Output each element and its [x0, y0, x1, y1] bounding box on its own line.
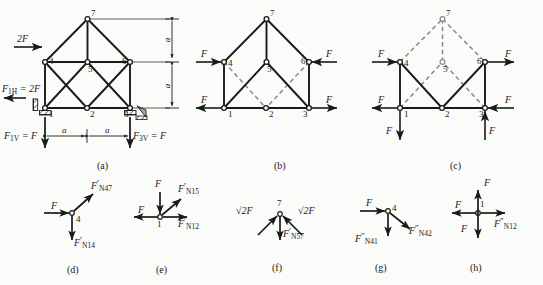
- panel-a-dim-a-1: a: [62, 125, 67, 135]
- panel-d-force-F: F: [51, 200, 57, 211]
- panel-caption-g: (g): [375, 262, 387, 273]
- panel-f-force-N57: F′N57: [283, 228, 304, 239]
- panel-g: [360, 209, 410, 236]
- panel-caption-c: (c): [450, 160, 461, 171]
- panel-g-force-N42: F″N42: [409, 225, 432, 236]
- panel-d-joint: [70, 211, 75, 216]
- panel-c-node-4: 4: [404, 58, 409, 68]
- panel-b-node-1: 1: [228, 109, 233, 119]
- panel-b-force-6: F: [326, 48, 332, 59]
- panel-c-node-5: 5: [443, 64, 448, 74]
- panel-caption-b: (b): [274, 160, 286, 171]
- panel-h-forces: [452, 190, 505, 238]
- panel-b-node-5: 5: [267, 64, 272, 74]
- panel-e-force-N12: F′N12: [178, 218, 199, 229]
- panel-caption-d: (d): [67, 264, 79, 275]
- panel-a-dim-horizontal: [45, 118, 130, 143]
- panel-f-joint: [278, 212, 283, 217]
- panel-a-reaction-F3V-label: F3V = F: [133, 130, 166, 141]
- panel-a-dim-vertical: [90, 19, 179, 108]
- panel-c-node-2: 2: [445, 109, 450, 119]
- panel-c-node-3: 3: [479, 109, 484, 119]
- panel-b-node-6: 6: [301, 56, 306, 66]
- panel-a-node-5: 5: [88, 64, 93, 74]
- panel-c-node-1: 1: [404, 109, 409, 119]
- panel-d-force-N14: F′N14: [74, 237, 95, 248]
- panel-f-node-label: 7: [277, 198, 282, 208]
- panel-h-node-label: 1: [480, 199, 485, 209]
- panel-c-force-1: F: [378, 94, 384, 105]
- panel-c-force-4: F: [378, 48, 384, 59]
- panel-c-node-6: 6: [477, 56, 482, 66]
- panel-caption-e: (e): [156, 264, 167, 275]
- panel-c: [372, 17, 514, 140]
- panel-a-node-6: 6: [122, 56, 127, 66]
- panel-b-node-2: 2: [269, 109, 274, 119]
- panel-a-dim-a-2: a: [105, 125, 110, 135]
- panel-h-force-down: F: [461, 223, 467, 234]
- panel-g-force-N41: F″N41: [355, 233, 378, 244]
- panel-caption-f: (f): [272, 262, 282, 273]
- panel-c-force-3v: F: [489, 125, 495, 136]
- panel-a-node-3: 3: [124, 109, 129, 119]
- panel-b-force-3: F: [326, 94, 332, 105]
- panel-a-node-7: 7: [91, 8, 96, 18]
- panel-caption-h: (h): [470, 262, 482, 273]
- panel-e-force-Fdown: F: [155, 178, 161, 189]
- panel-caption-a: (a): [97, 160, 108, 171]
- panel-c-force-3: F: [505, 94, 511, 105]
- panel-a-node-1: 1: [49, 109, 54, 119]
- panel-c-force-6: F: [505, 48, 511, 59]
- panel-h-force-N12: F″N12: [494, 218, 517, 229]
- panel-e-force-N15: F′N15: [178, 183, 199, 194]
- panel-c-force-1v: F: [386, 125, 392, 136]
- panel-a-load-label: 2F: [17, 33, 28, 44]
- panel-b-node-3: 3: [303, 109, 308, 119]
- panel-h-force-left: F: [455, 199, 461, 210]
- panel-e-node-label: 1: [157, 219, 162, 229]
- panel-c-zero-joints: [440, 17, 445, 65]
- panel-d-force-N47: F′N47: [91, 180, 112, 191]
- panel-b-force-4: F: [201, 48, 207, 59]
- panel-f-force-right: √2F: [298, 205, 315, 216]
- panel-g-force-F: F: [366, 197, 372, 208]
- panel-a-node-4: 4: [49, 56, 54, 66]
- panel-e-force-Fleft: F: [138, 204, 144, 215]
- panel-f-force-left: √2F: [236, 205, 253, 216]
- panel-b-force-1: F: [201, 94, 207, 105]
- panel-h-force-up: F: [484, 177, 490, 188]
- panel-d-node-label: 4: [76, 214, 81, 224]
- panel-a-dim-a-4: a: [162, 84, 172, 89]
- panel-a-reaction-F1H-label: F1H = 2F: [2, 83, 40, 94]
- panel-b-node-4: 4: [228, 58, 233, 68]
- panel-a-reaction-F1V-label: F1V = F: [4, 130, 37, 141]
- panel-g-node-label: 4: [392, 203, 397, 213]
- panel-a-dim-a-3: a: [162, 38, 172, 43]
- panel-g-joint: [386, 209, 391, 214]
- panel-b-node-7: 7: [270, 8, 275, 18]
- panel-a-node-2: 2: [90, 109, 95, 119]
- panel-h: [452, 190, 505, 238]
- panel-c-node-7: 7: [446, 8, 451, 18]
